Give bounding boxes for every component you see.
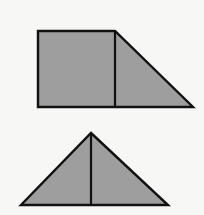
upper-figure-square-fill [38,31,115,107]
figure-canvas [0,0,204,215]
